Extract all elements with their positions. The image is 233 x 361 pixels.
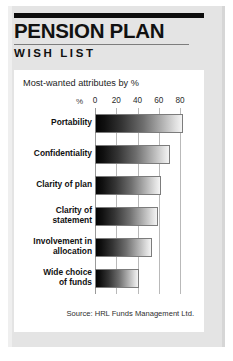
bar <box>95 145 170 164</box>
x-tick-label-60: 60 <box>154 96 163 105</box>
plot-area: % 020406080 PortabilityConfidentialityCl… <box>14 96 204 296</box>
bar-label: Clarity ofstatement <box>22 206 92 225</box>
bar-row: Involvement inallocation <box>14 232 204 263</box>
x-tick-label-0: 0 <box>93 96 98 105</box>
bar-row: Wide choiceof funds <box>14 263 204 294</box>
bar-row: Clarity of plan <box>14 170 204 201</box>
chart-panel: Most-wanted attributes by % % 020406080 … <box>14 70 204 332</box>
source-note: Source: HRL Funds Management Ltd. <box>66 309 194 318</box>
bar-label: Involvement inallocation <box>22 237 92 256</box>
bar-label: Wide choiceof funds <box>22 268 92 287</box>
page-subtitle: WISH LIST <box>14 47 96 59</box>
page-title: PENSION PLAN <box>14 19 164 43</box>
bar-row: Clarity ofstatement <box>14 201 204 232</box>
bar-rows: PortabilityConfidentialityClarity of pla… <box>14 108 204 296</box>
bar-label: Clarity of plan <box>22 180 92 190</box>
bar <box>95 238 152 257</box>
bar <box>95 207 158 226</box>
bar-label: Confidentiality <box>22 149 92 159</box>
bar-row: Portability <box>14 108 204 139</box>
x-tick-label-20: 20 <box>112 96 121 105</box>
chart-caption: Most-wanted attributes by % <box>23 78 139 88</box>
card-right-edge <box>222 6 225 347</box>
pension-plan-chart-figure: PENSION PLAN WISH LIST Most-wanted attri… <box>0 0 233 361</box>
title-top-rule <box>14 13 204 18</box>
x-tick-label-40: 40 <box>133 96 142 105</box>
bar-row: Confidentiality <box>14 139 204 170</box>
axis-unit-label: % <box>76 97 83 106</box>
bar <box>95 114 183 133</box>
bar <box>95 176 161 195</box>
bar-label: Portability <box>22 118 92 128</box>
title-divider <box>14 44 189 45</box>
x-tick-label-80: 80 <box>175 96 184 105</box>
card-left-edge <box>8 6 12 347</box>
bar <box>95 269 139 288</box>
